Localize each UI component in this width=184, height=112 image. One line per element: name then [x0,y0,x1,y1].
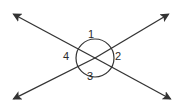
angle-label-2: 2 [111,51,125,62]
angle-label-4: 4 [59,51,73,62]
intersecting-lines-figure [0,0,184,112]
ray-upper-left [14,14,96,58]
angle-label-1: 1 [84,29,98,40]
angle-label-3: 3 [83,71,97,82]
angle-diagram: 1 2 3 4 [0,0,184,112]
ray-lower-right [95,58,171,99]
ray-upper-right [95,14,169,58]
